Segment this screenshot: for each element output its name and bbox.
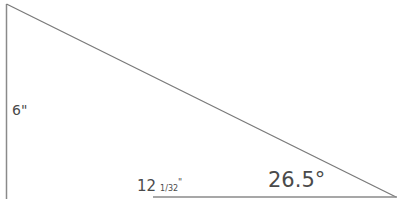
angle-label: 26.5° — [268, 170, 325, 191]
triangle-diagram — [0, 0, 397, 199]
base-fraction: 1/32 — [160, 184, 178, 193]
vertical-side-label: 6" — [12, 103, 27, 117]
base-whole: 12 — [137, 177, 156, 195]
horizontal-side-label: 121/32" — [137, 178, 182, 194]
hypotenuse — [7, 4, 397, 197]
base-unit: " — [178, 177, 182, 187]
